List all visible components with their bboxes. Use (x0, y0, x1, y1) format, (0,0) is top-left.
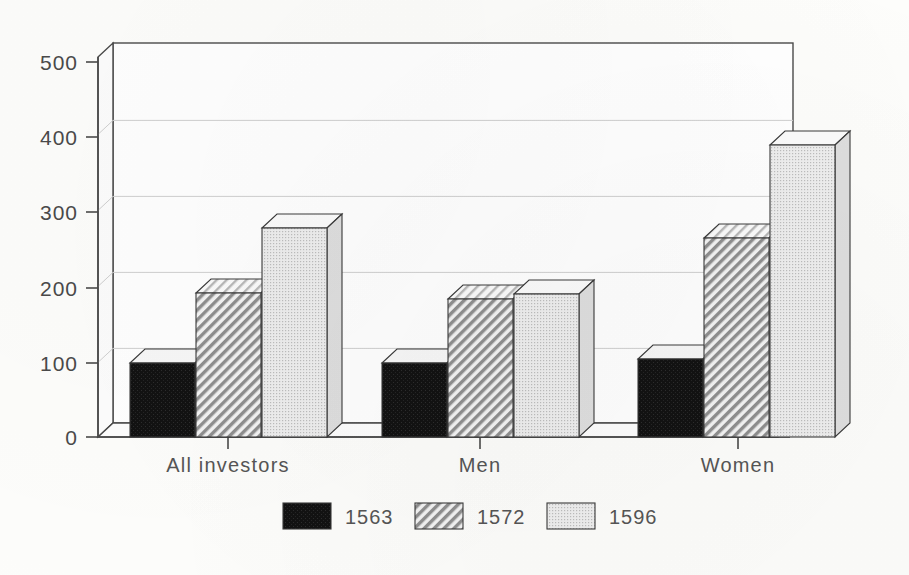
bar-front-face (704, 238, 769, 437)
legend-label-1563: 1563 (345, 506, 394, 528)
x-axis: All investors Men Women (98, 437, 790, 476)
x-category-label-all-investors: All investors (166, 454, 289, 476)
legend-item-1572[interactable]: 1572 (415, 503, 526, 529)
y-axis-ticks (86, 62, 98, 437)
bar-front-face (514, 294, 579, 437)
legend-swatch-1563 (283, 503, 331, 529)
x-category-label-men: Men (459, 454, 502, 476)
y-tick-label-200: 200 (40, 277, 78, 300)
bar-chart: 500 400 300 200 100 0 All investors Men … (0, 0, 909, 575)
left-wall (98, 43, 113, 437)
bar-front-face (770, 145, 835, 437)
bar-front-face (638, 359, 703, 437)
legend-swatch-1596 (547, 503, 595, 529)
legend-swatch-1572 (415, 503, 463, 529)
x-axis-ticks (228, 437, 738, 449)
chart-svg: 500 400 300 200 100 0 All investors Men … (0, 0, 909, 575)
y-axis: 500 400 300 200 100 0 (40, 51, 98, 449)
bar-men-1596[interactable] (514, 280, 594, 437)
bar-front-face (130, 363, 195, 437)
bar-front-face (196, 293, 261, 437)
legend: 1563 1572 1596 (283, 503, 658, 529)
y-tick-label-300: 300 (40, 201, 78, 224)
legend-item-1563[interactable]: 1563 (283, 503, 394, 529)
bar-side-face (835, 131, 850, 437)
bar-front-face (448, 299, 513, 437)
y-tick-label-100: 100 (40, 352, 78, 375)
x-category-label-women: Women (701, 454, 776, 476)
bar-front-face (262, 228, 327, 437)
y-tick-label-400: 400 (40, 126, 78, 149)
bar-all-investors-1596[interactable] (262, 214, 342, 437)
bar-side-face (579, 280, 594, 437)
legend-item-1596[interactable]: 1596 (547, 503, 658, 529)
legend-label-1596: 1596 (609, 506, 658, 528)
y-tick-label-0: 0 (65, 426, 78, 449)
y-tick-label-500: 500 (40, 51, 78, 74)
bar-side-face (327, 214, 342, 437)
legend-label-1572: 1572 (477, 506, 526, 528)
bar-front-face (382, 363, 447, 437)
bar-women-1596[interactable] (770, 131, 850, 437)
